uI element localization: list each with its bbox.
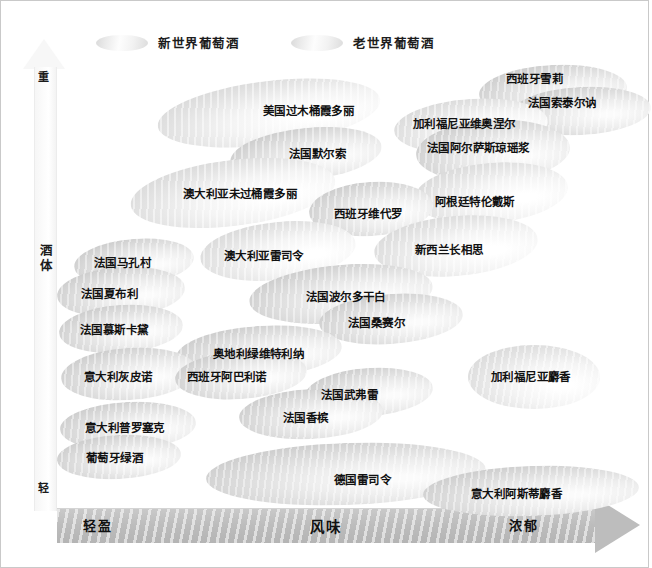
wine-bubble-label: 法国阿尔萨斯琼瑶浆 [427,143,530,155]
wine-bubble-label: 澳大利亚未过桶霞多丽 [183,189,297,201]
wine-bubble-label: 新西兰长相思 [415,245,483,257]
wine-bubble-label: 法国武弗雷 [321,390,378,402]
wine-bubble-label: 西班牙维代罗 [334,209,402,221]
wine-bubble-label: 美国过木桶霞多丽 [263,106,354,118]
wine-bubble-label: 法国夏布利 [81,289,138,301]
wine-bubble-label: 西班牙雪莉 [506,74,563,86]
wine-bubble-label: 加利福尼亚麝香 [491,372,571,384]
wine-bubble-label: 西班牙阿巴利诺 [187,372,267,384]
wine-bubble-label: 法国慕斯卡黛 [80,325,148,337]
wine-bubble-label: 德国雷司令 [334,475,391,487]
wine-bubble-label: 法国索泰尔讷 [528,98,596,110]
wine-bubble-label: 法国波尔多干白 [306,292,386,304]
wine-bubble-label: 葡萄牙绿酒 [86,453,143,465]
wine-bubble-label: 法国默尔索 [289,149,346,161]
wine-bubble-label: 意大利普罗塞克 [85,423,165,435]
wine-bubble-label: 法国香槟 [283,413,329,425]
bubble-plot-area: 西班牙雪莉法国索泰尔讷美国过木桶霞多丽加利福尼亚维奥涅尔法国阿尔萨斯琼瑶浆法国默… [1,1,650,568]
wine-bubble-label: 澳大利亚雷司令 [224,251,304,263]
wine-bubble-label: 意大利灰皮诺 [84,372,152,384]
wine-bubble-label: 法国马孔村 [94,258,151,270]
wine-bubble-label: 加利福尼亚维奥涅尔 [413,119,516,131]
wine-bubble-label: 意大利阿斯蒂麝香 [471,489,562,501]
wine-bubble-label: 法国桑赛尔 [348,318,405,330]
wine-bubble-label: 阿根廷特伦戴斯 [435,197,515,209]
wine-bubble-label: 奥地利绿维特利纳 [213,349,304,361]
